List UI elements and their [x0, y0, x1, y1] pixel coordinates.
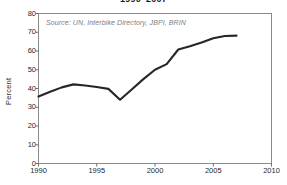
plot-area [0, 0, 287, 185]
chart-figure: 1990–2007 Percent 01020304050607080 1990… [0, 0, 287, 185]
data-line-percent [39, 36, 237, 100]
